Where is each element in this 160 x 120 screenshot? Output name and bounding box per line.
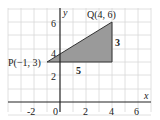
y-tick-4: 4 xyxy=(51,48,56,59)
triangle-pqr xyxy=(47,22,112,62)
x-tick-2: 2 xyxy=(83,106,88,117)
y-tick-2: 2 xyxy=(51,71,56,82)
x-tick-6: 6 xyxy=(134,106,139,117)
point-q-label: Q(4, 6) xyxy=(87,9,116,21)
y-tick-6: 6 xyxy=(51,18,56,29)
y-axis-label: y xyxy=(62,7,68,18)
x-tick-neg2: -2 xyxy=(27,106,35,117)
coordinate-diagram: x y -2 0 2 4 6 2 4 6 P(−1, 3) Q(4, 6) 5 … xyxy=(0,0,160,120)
leg-label-vertical: 3 xyxy=(115,37,120,48)
x-tick-4: 4 xyxy=(109,106,114,117)
point-p-label: P(−1, 3) xyxy=(8,57,41,69)
x-tick-0: 0 xyxy=(53,106,58,117)
x-axis-label: x xyxy=(143,90,149,101)
leg-label-horizontal: 5 xyxy=(76,65,81,76)
